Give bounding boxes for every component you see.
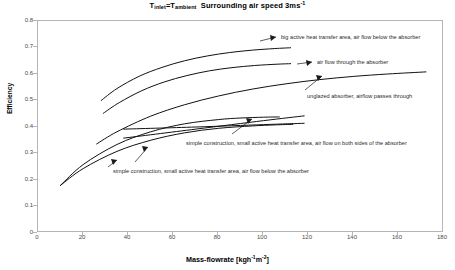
- x-axis-title-sup2: -2: [262, 254, 266, 260]
- x-axis-title: Mass-flowrate [kgh-1m-2]: [0, 255, 455, 264]
- curve-3: [61, 117, 280, 185]
- x-axis-title-main: Mass-flowrate [kgh: [186, 255, 251, 264]
- curve-4: [61, 124, 293, 185]
- y-tick-label-7: 0.1: [7, 202, 33, 208]
- x-tick-mark-3: [172, 232, 173, 236]
- x-tick-mark-4: [217, 232, 218, 236]
- x-tick-mark-8: [397, 232, 398, 236]
- plot-area: [37, 20, 443, 232]
- chart-title: Tinlet=Tambient Surrounding air speed 3m…: [0, 1, 455, 10]
- x-tick-mark-5: [262, 232, 263, 236]
- curve-0: [101, 48, 290, 101]
- curve-1: [103, 64, 290, 114]
- y-tick-mark-8: [33, 232, 37, 233]
- x-tick-mark-2: [127, 232, 128, 236]
- ann-big-active: big active heat transfer area, air flow …: [281, 34, 420, 41]
- chart-root: Tinlet=Tambient Surrounding air speed 3m…: [0, 0, 455, 270]
- ann-below-absorber: simple construction, small active heat t…: [113, 168, 309, 175]
- curve-6: [124, 123, 304, 129]
- y-axis-title: Efficiency: [6, 64, 13, 134]
- chart-title-sub-inlet: inlet: [154, 4, 166, 10]
- x-tick-mark-7: [352, 232, 353, 236]
- chart-title-sub-ambient: ambient: [175, 4, 196, 10]
- chart-title-sup: -1: [300, 0, 305, 6]
- chart-title-rest: Surrounding air speed 3ms: [201, 1, 301, 10]
- ann-through-absorber: air flow through the absorber: [317, 59, 388, 66]
- x-tick-label-0: 0: [22, 234, 52, 240]
- x-axis-title-sup1: -1: [251, 254, 255, 260]
- data-curves: [38, 21, 443, 232]
- y-tick-label-6: 0.2: [7, 176, 33, 182]
- x-tick-mark-6: [307, 232, 308, 236]
- y-tick-label-0: 0.8: [7, 17, 33, 23]
- x-tick-mark-1: [82, 232, 83, 236]
- chart-title-eq: =T: [166, 1, 175, 10]
- ann-both-sides: simple construction, small active heat t…: [186, 140, 407, 147]
- curve-5: [124, 116, 304, 138]
- ann-unglazed: unglazed absorber, airflow passes throug…: [307, 93, 412, 100]
- y-tick-label-1: 0.7: [7, 43, 33, 49]
- x-tick-label-9: 180: [427, 234, 455, 240]
- y-tick-label-5: 0.3: [7, 149, 33, 155]
